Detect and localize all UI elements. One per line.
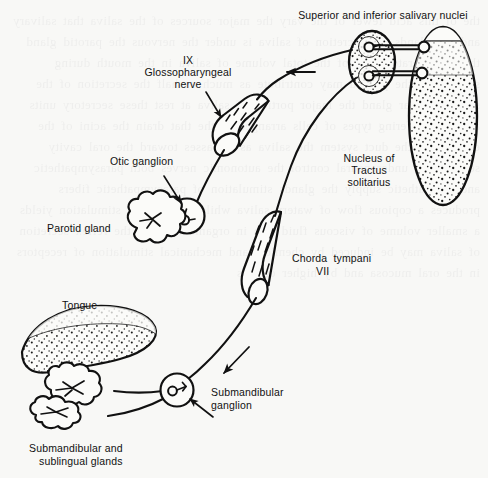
chorda-tympani-fiber-upper: [275, 78, 356, 216]
parotid-gland: [128, 190, 186, 242]
glossopharyngeal-nerve-trunk: [211, 95, 269, 161]
nts-neuron-upper: [419, 42, 430, 53]
label-parotid-gland: Parotid gland: [47, 222, 111, 235]
label-submandibular-ganglion-line1: Submandibular: [211, 386, 284, 399]
label-glands-line1: Submandibular and: [29, 442, 123, 455]
label-solitarius: solitarius: [329, 176, 409, 189]
preganglionic-fiber-to-submandibular-ganglion: [188, 298, 256, 379]
preganglionic-fiber-to-otic-ganglion: [196, 150, 224, 204]
label-chorda-tympani: Chorda tympani: [292, 252, 371, 265]
label-glossopharyngeal-nerve: nerve: [133, 78, 243, 91]
submandibular-ganglion-neuron: [168, 387, 177, 396]
label-tongue: Tongue: [62, 299, 97, 312]
label-chorda-tympani-roman-numeral: VII: [316, 265, 329, 278]
efferent-flow-arrow-lower: [224, 347, 249, 373]
figure-page: the of this acid fewer of the vary the m…: [0, 0, 488, 478]
chorda-tympani-nerve-trunk: [242, 211, 281, 306]
label-otic-ganglion: Otic ganglion: [110, 155, 173, 168]
label-nucleus-of: Nucleus of: [329, 152, 409, 165]
tongue: [18, 300, 158, 377]
nts-neuron-lower: [417, 68, 428, 79]
glossopharyngeal-pointer-arrow: [206, 92, 221, 117]
postganglionic-fiber-to-sublingual-gland: [108, 397, 167, 416]
submandibular-ganglion: [161, 374, 194, 407]
label-glossopharyngeal-name: Glossopharyngeal: [133, 66, 243, 79]
nucleus-of-tractus-solitarius: [409, 27, 479, 205]
label-glands-line2: sublingual glands: [39, 455, 123, 468]
salivary-nucleus-neuron-superior: [364, 42, 373, 51]
postganglionic-fiber-to-submandibular-gland: [114, 391, 163, 393]
submandibular-ganglion-pointer-arrow: [190, 399, 213, 417]
label-superior-and-inferior-salivary-nuclei: Superior and inferior salivary nuclei: [283, 9, 483, 22]
superior-and-inferior-salivary-nuclei: [349, 31, 395, 93]
label-tractus: Tractus: [329, 164, 409, 177]
label-glossopharyngeal-roman-numeral: IX: [133, 54, 243, 67]
label-submandibular-ganglion-line2: ganglion: [211, 399, 252, 412]
